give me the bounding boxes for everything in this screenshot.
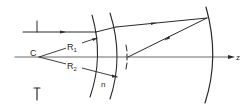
ray-to-mirror xyxy=(96,18,207,32)
lens-front-surface xyxy=(90,15,98,97)
diagram-svg: z xyxy=(0,0,250,110)
center-label: C xyxy=(30,48,37,58)
optical-axis xyxy=(15,55,235,59)
ray-arrow-icon xyxy=(60,31,66,34)
optical-diagram: z xyxy=(0,0,250,110)
stop-marker xyxy=(34,88,40,100)
concave-mirror xyxy=(205,7,213,103)
index-label: n xyxy=(101,80,105,89)
reflected-ray xyxy=(128,18,207,57)
axis-arrow-icon xyxy=(228,55,235,59)
axis-label: z xyxy=(236,53,240,62)
lens-back-surface xyxy=(110,13,117,99)
incident-ray xyxy=(23,21,96,34)
ray-arrow-icon xyxy=(151,23,157,26)
radius-arrow-icon xyxy=(112,75,118,78)
